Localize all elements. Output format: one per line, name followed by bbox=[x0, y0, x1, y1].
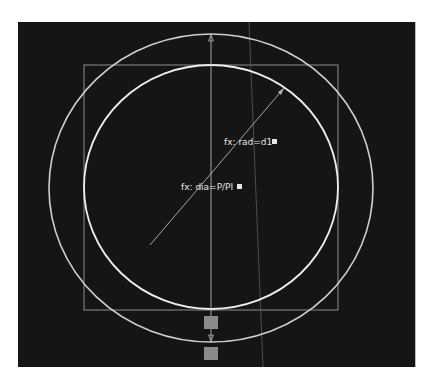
radius-label[interactable]: fx: rad=d1 bbox=[224, 137, 272, 147]
handle-lower[interactable] bbox=[204, 347, 218, 360]
diameter-label[interactable]: fx: dia=P/PI bbox=[181, 182, 233, 192]
lock-icon-radius bbox=[272, 139, 277, 144]
handle-upper[interactable] bbox=[204, 316, 218, 329]
sketch-scene[interactable]: fx: rad=d1 fx: dia=P/PI bbox=[0, 0, 431, 382]
lock-icon-diameter bbox=[237, 184, 242, 189]
radius-dimension-line[interactable] bbox=[150, 88, 284, 245]
